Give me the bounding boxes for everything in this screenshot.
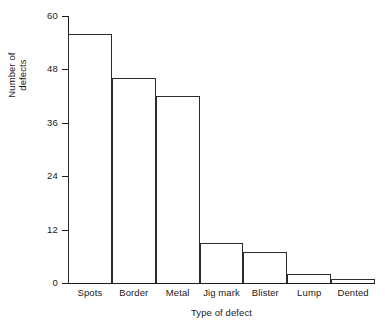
x-axis-title: Type of defect <box>68 307 375 318</box>
y-axis-tick-label: 0 <box>28 278 58 288</box>
bar-chart: Number of defects 01224364860 SpotsBorde… <box>0 0 385 332</box>
y-axis-title-line-1: Number of <box>6 20 17 130</box>
y-axis-tick-label: 48 <box>28 64 58 74</box>
x-axis-labels: SpotsBorderMetalJig markBlisterLumpDente… <box>68 287 375 303</box>
y-axis-title-line-2: defects <box>17 20 28 130</box>
bar-border <box>112 78 156 283</box>
x-axis-label-dented: Dented <box>331 287 375 299</box>
y-axis-tick-label: 12 <box>28 225 58 235</box>
bar-blister <box>243 252 287 283</box>
bar-dented <box>331 279 375 283</box>
y-axis-tick-label: 24 <box>28 171 58 181</box>
x-axis-label-jig-mark: Jig mark <box>200 287 244 299</box>
bar-lump <box>287 274 331 283</box>
y-axis-title: Number of defects <box>6 20 32 130</box>
bar-metal <box>156 96 200 283</box>
bars-container <box>68 0 375 332</box>
bar-jig-mark <box>200 243 244 283</box>
x-axis-label-lump: Lump <box>287 287 331 299</box>
bar-spots <box>68 34 112 283</box>
x-axis-label-metal: Metal <box>156 287 200 299</box>
x-axis-label-blister: Blister <box>243 287 287 299</box>
x-axis-label-border: Border <box>112 287 156 299</box>
y-axis-tick-label: 60 <box>28 11 58 21</box>
x-axis-label-spots: Spots <box>68 287 112 299</box>
y-axis-tick-label: 36 <box>28 118 58 128</box>
